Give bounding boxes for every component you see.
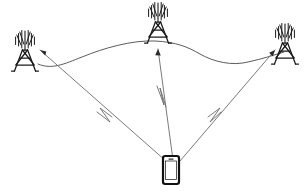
signal-phone-to-center-tower — [155, 49, 173, 160]
lightning-bolt-icon — [97, 108, 112, 122]
tower-antenna-icon — [16, 31, 35, 51]
tower-antenna-icon — [276, 24, 295, 44]
left-cell-tower — [12, 31, 39, 72]
tower-lattice-structure — [272, 43, 299, 64]
mobile-phone — [163, 156, 179, 184]
arrowhead-icon — [40, 50, 46, 56]
signal-left-path — [40, 50, 166, 161]
tower-to-tower-curved-link — [38, 41, 284, 67]
tower-lattice-structure — [12, 50, 39, 71]
signal-phone-to-left-tower — [40, 50, 166, 161]
tower-antenna-icon — [149, 3, 168, 23]
right-cell-tower — [272, 24, 299, 65]
tower-lattice-structure — [145, 22, 172, 43]
phone-speaker-icon — [168, 158, 173, 159]
signal-right-path — [180, 50, 275, 161]
signal-phone-to-right-tower — [180, 50, 275, 161]
network-diagram-svg — [0, 0, 306, 194]
center-cell-tower — [145, 3, 172, 44]
diagram-canvas: Mobile device connected to three cellula… — [0, 0, 306, 194]
phone-screen — [166, 161, 177, 180]
arrowhead-icon — [155, 49, 161, 56]
